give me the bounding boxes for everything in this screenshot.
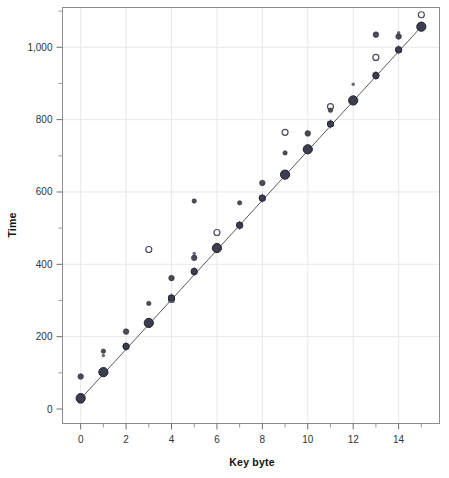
data-point-main (327, 119, 333, 128)
y-tick-label: 800 (36, 114, 53, 125)
x-tick-label: 14 (393, 434, 405, 445)
point-marker (123, 343, 129, 349)
data-point-secondary (214, 230, 220, 236)
data-point-secondary (192, 199, 196, 203)
data-point-secondary (260, 180, 266, 186)
x-tick-label: 2 (123, 434, 129, 445)
y-tick-label: 0 (47, 404, 53, 415)
y-tick-label: 200 (36, 331, 53, 342)
data-point-main (212, 243, 221, 252)
data-point-main (417, 22, 426, 31)
data-point-main (191, 267, 197, 276)
data-point-secondary (191, 255, 197, 261)
data-point-secondary (78, 374, 84, 380)
data-point-main (280, 170, 289, 179)
point-marker (144, 318, 153, 327)
point-marker (212, 243, 221, 252)
data-point-secondary (146, 247, 152, 253)
data-point-secondary (373, 32, 379, 38)
point-marker (191, 268, 197, 274)
plot-frame-group (63, 8, 440, 424)
data-point-secondary (102, 354, 105, 357)
data-point-secondary (123, 329, 129, 335)
data-point-secondary (418, 12, 424, 18)
data-point-secondary (305, 131, 311, 137)
x-tick-label: 12 (348, 434, 360, 445)
data-point-main (259, 194, 265, 203)
gridlines-group (63, 8, 440, 424)
data-point-main (144, 318, 153, 327)
x-tick-label: 0 (78, 434, 84, 445)
point-marker (280, 170, 289, 179)
point-marker (99, 368, 108, 377)
data-point-secondary (193, 252, 196, 255)
data-point-secondary (396, 34, 402, 40)
scatter-plot-svg: 02004006008001,000 02468101214 Time Key … (0, 0, 449, 478)
data-point-main (123, 342, 129, 351)
point-marker (168, 295, 174, 301)
point-marker (395, 47, 401, 53)
y-axis-title: Time (6, 212, 18, 237)
y-axis-ticks (57, 11, 63, 409)
y-tick-label: 1,000 (27, 42, 52, 53)
data-point-main (303, 145, 312, 154)
data-point-main (76, 394, 85, 403)
y-tick-label: 400 (36, 259, 53, 270)
x-axis-title: Key byte (229, 456, 274, 468)
data-point-main (99, 368, 108, 377)
trend-line-group (81, 27, 422, 399)
data-point-secondary (147, 301, 151, 305)
point-marker (259, 195, 265, 201)
data-point-main (395, 45, 401, 54)
secondary-points-group (78, 12, 425, 403)
point-marker (373, 72, 379, 78)
point-marker (303, 145, 312, 154)
data-point-secondary (169, 275, 175, 281)
data-point-secondary (101, 349, 105, 353)
x-tick-label: 10 (302, 434, 314, 445)
data-point-secondary (351, 82, 354, 85)
data-point-secondary (282, 129, 288, 135)
data-point-secondary (283, 151, 287, 155)
trend-line (81, 27, 422, 399)
x-axis-tick-labels: 02468101214 (78, 434, 405, 445)
x-tick-label: 6 (214, 434, 220, 445)
data-point-main (349, 96, 358, 105)
point-marker (236, 222, 242, 228)
data-point-secondary (373, 54, 379, 60)
y-tick-label: 600 (36, 186, 53, 197)
data-point-secondary (328, 108, 332, 112)
point-marker (417, 22, 426, 31)
point-marker (76, 394, 85, 403)
x-tick-label: 4 (169, 434, 175, 445)
chart-figure: 02004006008001,000 02468101214 Time Key … (0, 0, 449, 478)
x-axis-ticks (81, 424, 422, 430)
point-marker (327, 121, 333, 127)
plot-border (63, 8, 440, 424)
y-axis-tick-labels: 02004006008001,000 (27, 42, 52, 415)
point-marker (349, 96, 358, 105)
x-tick-label: 8 (260, 434, 266, 445)
data-point-secondary (237, 201, 241, 205)
